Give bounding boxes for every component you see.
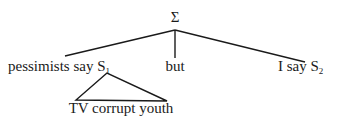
- node-pessimists-say-s1: pessimists say S1: [8, 58, 110, 76]
- triangle-expansion: [76, 73, 167, 101]
- node-i-say-s2: I say S2: [278, 58, 323, 76]
- syntax-tree-diagram: Σ pessimists say S1 but I say S2 TV corr…: [0, 0, 337, 135]
- node-but: but: [165, 58, 185, 74]
- branch-left: [65, 30, 175, 56]
- node-tv-corrupt-youth: TV corrupt youth: [69, 100, 174, 116]
- root-node-sigma: Σ: [171, 9, 180, 25]
